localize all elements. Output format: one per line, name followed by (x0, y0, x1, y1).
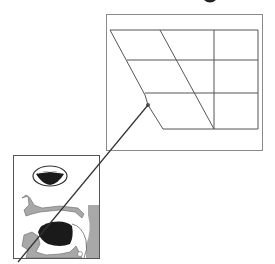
trapezoid-front-edge (110, 30, 163, 129)
cropped-title-glyph (204, 0, 216, 3)
epiglottis (78, 252, 83, 257)
diagram-canvas (0, 0, 275, 264)
vowel-diagram (0, 0, 275, 264)
trapezoid-central-line (160, 30, 214, 129)
vowel-trapezoid (110, 30, 258, 129)
articulation-panel (14, 156, 100, 259)
lips-front-view (33, 166, 67, 186)
vowel-chart-frame (107, 15, 263, 151)
